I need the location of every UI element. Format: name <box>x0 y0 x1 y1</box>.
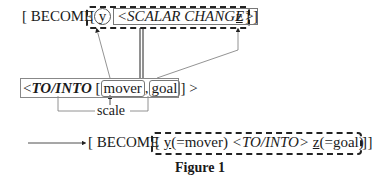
bottom-inner-close: ] <box>367 134 372 150</box>
bottom-to-into: <TO/INTO> <box>232 134 309 150</box>
gt-bracket: > <box>189 80 197 96</box>
to-into-expression: <TO/INTO [mover,goal] > <box>23 80 198 97</box>
top-become-open: [ BECOME <box>22 8 93 25</box>
var-y: y <box>94 8 111 25</box>
bottom-inner-open: [ <box>155 134 160 150</box>
arg-bracket-open: [ <box>96 80 101 96</box>
top-close: ] <box>253 8 258 25</box>
arrow-goal-to-z <box>157 30 238 78</box>
mover-box: mover <box>101 80 145 97</box>
to-into-label: TO/INTO <box>31 80 91 96</box>
var-y-circle: y <box>94 8 111 25</box>
goal-box: goal <box>149 80 181 97</box>
top-inner-close: ] <box>245 8 250 25</box>
bottom-become-open: [ BECOME <box>88 134 159 151</box>
var-z: z <box>236 8 243 25</box>
scale-label: scale <box>97 103 125 119</box>
arg-bracket-close: ] <box>180 80 185 96</box>
bottom-inner-expression: [ y(=mover) <TO/INTO> z(=goal) ] <box>155 134 372 151</box>
arrow-mover-to-y <box>97 30 110 78</box>
bottom-close: ] <box>362 134 367 151</box>
figure-caption: Figure 1 <box>175 160 225 176</box>
bottom-z-role: (=goal) <box>319 134 363 150</box>
bottom-y-role: (=mover) <box>171 134 228 150</box>
